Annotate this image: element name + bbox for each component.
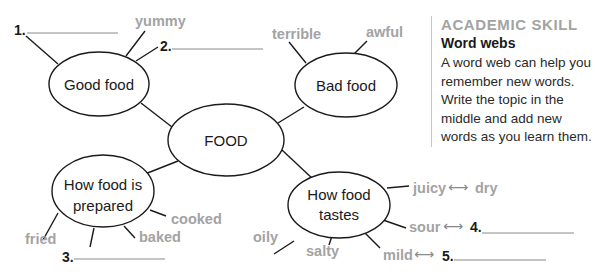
blank-number-5: 5. (442, 248, 454, 264)
double-arrow-icon: ⟷ (448, 179, 468, 195)
label-food-center: FOOD (204, 132, 247, 149)
spoke-cooked (150, 210, 166, 216)
spoke-sour (383, 220, 406, 228)
spoke-blank2 (136, 47, 158, 61)
spoke-tastes-center (282, 150, 314, 180)
spoke-juicy (387, 186, 409, 188)
word-cooked: cooked (171, 211, 222, 227)
double-arrow-icon: ⟷ (414, 246, 434, 262)
spoke-good-center (141, 103, 172, 127)
label-tastes-line2: tastes (319, 206, 359, 223)
spoke-awful (354, 41, 367, 54)
word-salty: salty (306, 243, 339, 259)
label-bad-food: Bad food (316, 77, 376, 94)
spoke-prepared-center (145, 161, 178, 174)
label-tastes-line1: How food (307, 186, 370, 203)
word-fried: fried (25, 231, 56, 247)
blank-number-2: 2. (160, 38, 172, 54)
word-mild: mild (383, 247, 413, 263)
sidebar-kicker: ACADEMIC SKILL (441, 16, 595, 34)
spoke-yummy (126, 31, 145, 56)
spoke-blank3 (90, 228, 94, 247)
double-arrow-icon: ⟷ (443, 218, 463, 234)
word-sour: sour (409, 219, 441, 235)
blank-number-4: 4. (470, 219, 482, 235)
word-juicy: juicy (412, 180, 446, 196)
blank-number-1: 1. (14, 22, 26, 38)
spoke-mild (364, 232, 380, 248)
label-good-food: Good food (64, 76, 134, 93)
node-tastes (288, 172, 390, 238)
word-awful: awful (366, 24, 403, 40)
word-oily: oily (253, 229, 278, 245)
word-yummy: yummy (135, 13, 186, 29)
spoke-baked (124, 226, 135, 238)
spoke-blank1 (26, 36, 58, 64)
label-prepared-line2: prepared (73, 197, 133, 214)
spoke-terrible (289, 42, 306, 63)
word-terrible: terrible (272, 26, 321, 42)
sidebar-title: Word webs (441, 35, 595, 52)
sidebar-body: A word web can help you remember new wor… (441, 54, 595, 147)
spoke-bad-center (278, 107, 304, 123)
word-baked: baked (139, 229, 181, 245)
blank-number-3: 3. (62, 249, 74, 265)
academic-skill-box: ACADEMIC SKILL Word webs A word web can … (431, 16, 595, 147)
label-prepared-line1: How food is (64, 176, 142, 193)
word-dry: dry (475, 180, 498, 196)
